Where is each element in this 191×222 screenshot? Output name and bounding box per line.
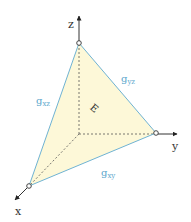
- y-axis-label: y: [171, 140, 179, 153]
- face-e: [29, 43, 156, 186]
- edge-label-xy: gxy: [101, 167, 115, 180]
- edge-label-yz: gyz: [121, 73, 135, 86]
- x-axis-arrow: [15, 188, 27, 200]
- vertex-x: [27, 184, 32, 189]
- edge-label-xz: gxz: [36, 95, 50, 108]
- tetrahedron-diagram: z y x E gxz gyz gxy: [0, 0, 191, 222]
- x-axis-label: x: [15, 205, 22, 218]
- vertex-z: [77, 41, 82, 46]
- z-axis-label: z: [68, 18, 74, 31]
- vertex-y: [154, 131, 159, 136]
